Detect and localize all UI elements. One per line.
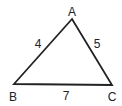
vertex-label-b: B [9,90,17,104]
triangle-abc [14,19,112,85]
vertex-label-c: C [108,90,117,104]
side-label-bc: 7 [63,89,70,103]
side-label-ab: 4 [35,37,42,51]
triangle-diagram: A B C 4 5 7 [0,0,122,106]
side-label-ac: 5 [94,37,101,51]
vertex-label-a: A [68,5,76,19]
